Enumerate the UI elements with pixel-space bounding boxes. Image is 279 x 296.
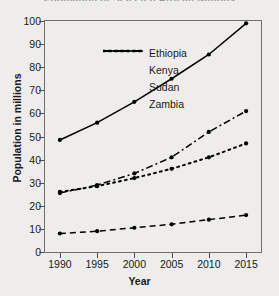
- y-tick-label: 60: [11, 107, 41, 119]
- chart-legend: EthiopiaKenyaSudanZambia: [103, 46, 187, 111]
- legend-label: Zambia: [149, 98, 184, 110]
- chart-title: Population of Selected African Nations: [0, 0, 279, 1]
- data-point-marker: [132, 226, 136, 230]
- legend-item-zambia: Zambia: [103, 97, 187, 111]
- x-tick-mark: [209, 253, 210, 258]
- x-tick-label: 2010: [189, 258, 229, 270]
- series-line-sudan: [60, 143, 246, 192]
- data-point-marker: [207, 130, 211, 134]
- y-tick-label: 30: [11, 177, 41, 189]
- x-tick-mark: [134, 253, 135, 258]
- x-tick-mark: [246, 253, 247, 258]
- data-point-marker: [207, 155, 211, 159]
- data-point-marker: [244, 213, 248, 217]
- x-axis-label: Year: [0, 275, 279, 287]
- data-point-marker: [244, 21, 248, 25]
- legend-key-icon: [103, 82, 143, 92]
- legend-label: Sudan: [149, 81, 179, 93]
- x-tick-label: 1990: [40, 258, 80, 270]
- data-point-marker: [207, 218, 211, 222]
- x-tick-label: 1995: [77, 258, 117, 270]
- legend-key-icon: [103, 65, 143, 75]
- chart-figure: Population of Selected African Nations P…: [0, 0, 279, 296]
- data-point-marker: [244, 141, 248, 145]
- x-tick-mark: [97, 253, 98, 258]
- data-point-marker: [207, 52, 211, 56]
- y-tick-label: 80: [11, 61, 41, 73]
- data-point-marker: [95, 229, 99, 233]
- y-tick-label: 40: [11, 154, 41, 166]
- legend-label: Ethiopia: [149, 47, 187, 59]
- data-point-marker: [95, 121, 99, 125]
- data-point-marker: [244, 109, 248, 113]
- data-point-marker: [170, 155, 174, 159]
- legend-key-icon: [103, 99, 143, 109]
- x-tick-label: 2015: [226, 258, 266, 270]
- legend-item-sudan: Sudan: [103, 80, 187, 94]
- data-point-marker: [132, 176, 136, 180]
- y-tick-label: 50: [11, 131, 41, 143]
- y-tick-label: 90: [11, 38, 41, 50]
- x-tick-mark: [172, 253, 173, 258]
- y-tick-label: 0: [11, 246, 41, 258]
- data-point-marker: [95, 184, 99, 188]
- data-point-marker: [170, 222, 174, 226]
- legend-item-kenya: Kenya: [103, 63, 187, 77]
- series-line-kenya: [60, 111, 246, 193]
- data-point-marker: [58, 231, 62, 235]
- y-tick-label: 20: [11, 200, 41, 212]
- y-tick-label: 100: [11, 15, 41, 27]
- data-point-marker: [58, 138, 62, 142]
- plot-area: EthiopiaKenyaSudanZambia: [44, 20, 262, 253]
- data-point-marker: [170, 167, 174, 171]
- series-line-zambia: [60, 215, 246, 233]
- x-tick-label: 2005: [152, 258, 192, 270]
- x-tick-label: 2000: [114, 258, 154, 270]
- y-tick-label: 70: [11, 84, 41, 96]
- x-tick-mark: [60, 253, 61, 258]
- legend-label: Kenya: [149, 64, 179, 76]
- data-point-marker: [58, 190, 62, 194]
- y-tick-label: 10: [11, 223, 41, 235]
- data-point-marker: [132, 171, 136, 175]
